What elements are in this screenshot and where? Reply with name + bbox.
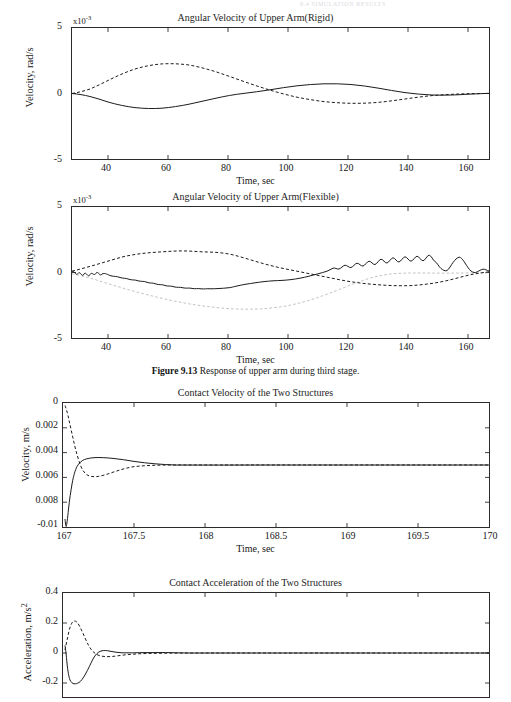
series-dashed xyxy=(72,64,489,104)
y-tick-label: 0.002 xyxy=(12,419,58,430)
y-axis-label: Velocity, rad/s xyxy=(24,202,35,312)
x-tick-label: 170 xyxy=(474,530,506,541)
plot-area xyxy=(62,402,490,528)
y-multiplier: x10-3 xyxy=(73,14,91,26)
x-tick-label: 168 xyxy=(190,530,222,541)
x-tick-label: 80 xyxy=(213,162,239,173)
x-tick-label: 160 xyxy=(450,341,482,352)
y-tick-label: 5 xyxy=(40,199,62,210)
x-axis-label: Time, sec xyxy=(0,175,511,186)
x-tick-label: 120 xyxy=(330,162,362,173)
x-tick-label: 140 xyxy=(390,162,422,173)
y-axis-label-exponent: 2 xyxy=(19,603,29,607)
chart-upper-arm-rigid: Angular Velocity of Upper Arm(Rigid) x10… xyxy=(0,12,511,190)
figure-caption-prefix: Figure 9.13 xyxy=(152,366,198,376)
y-tick-label: -0.01 xyxy=(10,518,58,529)
figure-caption: Figure 9.13 Response of upper arm during… xyxy=(0,366,511,376)
y-multiplier-base: x10 xyxy=(73,16,86,26)
chart-contact-acceleration: Contact Acceleration of the Two Structur… xyxy=(0,577,511,695)
x-axis-label: Time, sec xyxy=(0,354,511,365)
y-tick-label: 0.006 xyxy=(12,469,58,480)
y-multiplier-base: x10 xyxy=(73,195,86,205)
x-tick-label: 120 xyxy=(330,341,362,352)
y-tick-label: 0 xyxy=(40,266,62,277)
chart-title: Contact Acceleration of the Two Structur… xyxy=(0,577,511,588)
x-tick-label: 60 xyxy=(153,162,179,173)
plot-svg xyxy=(63,403,489,527)
x-axis-ticks xyxy=(134,593,418,597)
y-axis-label: Velocity, rad/s xyxy=(24,23,35,133)
y-tick-label: -0.2 xyxy=(14,675,58,686)
y-tick-label: 0.008 xyxy=(12,494,58,505)
series-dashed xyxy=(65,621,489,657)
x-tick-label: 140 xyxy=(390,341,422,352)
x-tick-label: 80 xyxy=(213,341,239,352)
plot-svg xyxy=(72,28,489,159)
y-tick-label: -5 xyxy=(38,332,62,343)
x-tick-label: 40 xyxy=(93,341,119,352)
x-tick-label: 169.5 xyxy=(397,530,439,541)
x-tick-label: 100 xyxy=(270,341,302,352)
x-tick-label: 167 xyxy=(48,530,80,541)
series-solid xyxy=(65,646,489,684)
x-tick-label: 169 xyxy=(332,530,364,541)
x-tick-label: 100 xyxy=(270,162,302,173)
chart-upper-arm-flexible: Angular Velocity of Upper Arm(Flexible) … xyxy=(0,191,511,369)
chart-title: Contact Velocity of the Two Structures xyxy=(0,387,511,398)
x-tick-label: 60 xyxy=(153,341,179,352)
y-tick-label: 5 xyxy=(40,20,62,31)
plot-svg xyxy=(72,207,489,338)
series-faint xyxy=(72,273,489,309)
y-multiplier-exponent: -3 xyxy=(86,14,91,21)
y-multiplier: x10-3 xyxy=(73,193,91,205)
y-tick-label: 0.2 xyxy=(20,615,58,626)
plot-area xyxy=(71,27,490,160)
y-tick-label: 0.004 xyxy=(12,444,58,455)
y-tick-label: 0.4 xyxy=(20,585,58,596)
x-tick-label: 167.5 xyxy=(113,530,155,541)
plot-svg xyxy=(63,593,489,697)
x-tick-label: 160 xyxy=(450,162,482,173)
y-multiplier-exponent: -3 xyxy=(86,193,91,200)
chart-contact-velocity: Contact Velocity of the Two Structures V… xyxy=(0,387,511,562)
x-tick-label: 168.5 xyxy=(255,530,297,541)
series-dashed xyxy=(65,406,489,477)
figure-caption-text: Response of upper arm during third stage… xyxy=(200,366,360,376)
y-tick-label: 0 xyxy=(20,395,58,406)
plot-area xyxy=(62,592,490,698)
y-tick-label: -5 xyxy=(38,153,62,164)
running-head: 9.4 SIMULATION RESULTS xyxy=(300,1,500,9)
plot-area xyxy=(71,206,490,339)
y-tick-label: 0 xyxy=(40,87,62,98)
y-tick-label: 0 xyxy=(20,645,58,656)
x-axis-label: Time, sec xyxy=(0,543,511,554)
x-tick-label: 40 xyxy=(93,162,119,173)
